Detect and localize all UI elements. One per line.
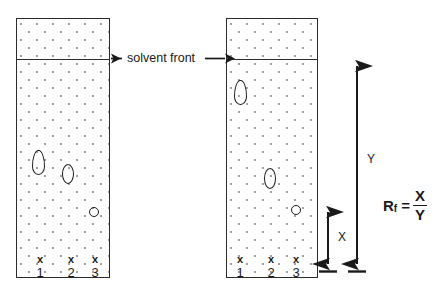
annotation-arrows: [0, 0, 440, 291]
tlc-diagram-canvas: x x x 1 2 3 x x x 1 2 3: [0, 0, 440, 291]
y-measure-label: Y: [367, 153, 375, 165]
rf-fraction: X Y: [413, 188, 427, 223]
rf-denominator: Y: [413, 206, 427, 223]
rf-subscript: f: [394, 204, 397, 214]
rf-symbol: R: [383, 198, 394, 213]
rf-numerator: X: [413, 188, 427, 205]
rf-equals: =: [401, 198, 410, 213]
solvent-front-label: solvent front: [127, 52, 195, 65]
rf-formula: Rf = X Y: [383, 188, 427, 223]
x-measure-label: X: [338, 231, 346, 243]
